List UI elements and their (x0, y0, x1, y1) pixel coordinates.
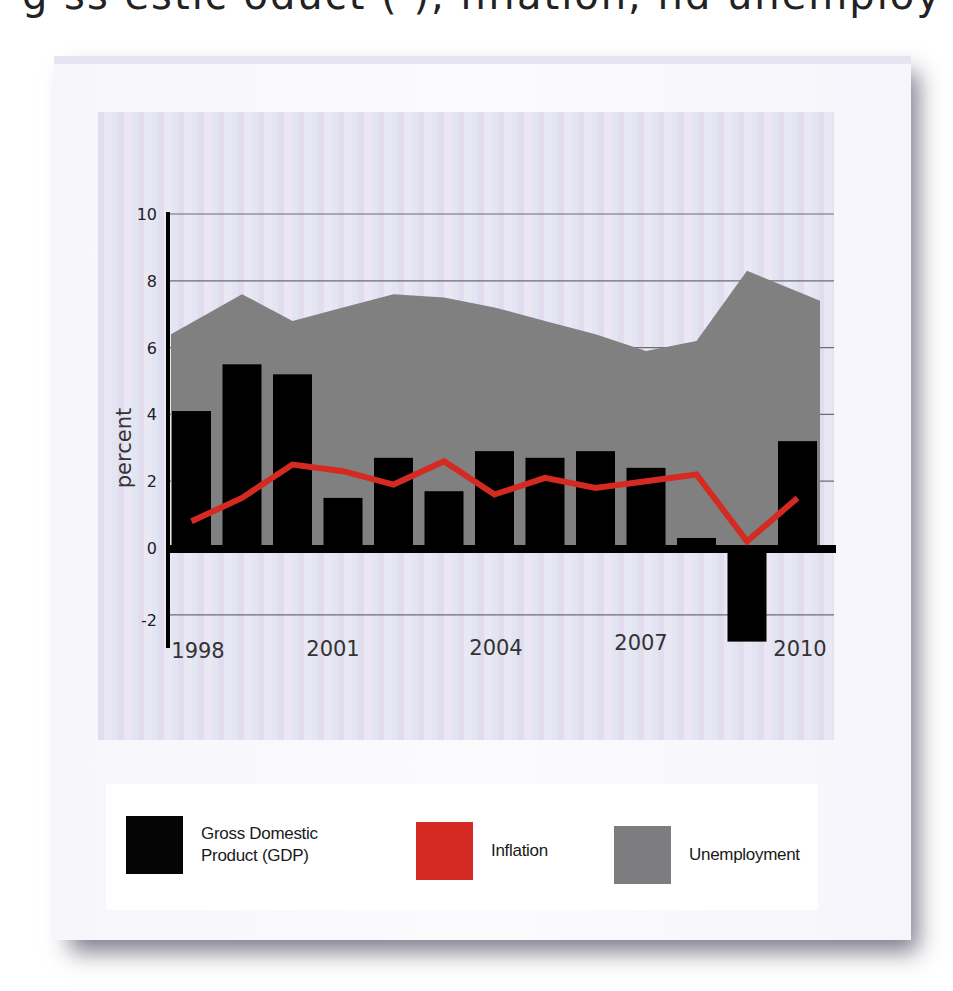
y-axis-line (166, 212, 170, 648)
y-axis-title: percent (112, 408, 136, 488)
y-tick-label: 0 (147, 539, 157, 558)
y-tick-label: 10 (137, 205, 157, 224)
gdp-bar-2003 (425, 491, 464, 548)
legend-label-inflation: Inflation (491, 840, 548, 862)
gdp-swatch-icon (126, 816, 183, 874)
x-tick-label-2001: 2001 (306, 637, 359, 661)
gdp-bar-2000 (273, 374, 312, 548)
y-tick-label: 6 (147, 339, 157, 358)
legend-item-gdp: Gross Domestic Product (GDP) (126, 816, 318, 874)
y-tick-label: -2 (141, 611, 157, 630)
x-tick-label-2004: 2004 (469, 636, 522, 660)
gdp-bar-2004 (475, 451, 514, 548)
legend-item-unemployment: Unemployment (614, 826, 800, 884)
inflation-swatch-icon (416, 822, 473, 880)
legend-item-inflation: Inflation (416, 822, 548, 880)
legend-label-line2: Product (GDP) (201, 846, 309, 865)
x-tick-label-2007: 2007 (614, 631, 667, 655)
gdp-bar-2010 (778, 441, 817, 548)
gdp-bar-2002 (374, 458, 413, 548)
x-tick-label-1998: 1998 (171, 639, 224, 663)
gdp-bar-1998 (172, 411, 211, 548)
y-tick-label: 2 (147, 472, 157, 491)
gdp-bar-1999 (223, 364, 262, 548)
legend-label-unemployment: Unemployment (689, 844, 800, 866)
gdp-bar-2009 (728, 548, 767, 642)
unemployment-swatch-icon (614, 826, 671, 884)
gdp-bar-2006 (576, 451, 615, 548)
gdp-bar-2001 (324, 498, 363, 548)
y-tick-label: 4 (147, 405, 157, 424)
gdp-bar-2005 (526, 458, 565, 548)
y-tick-label: 8 (147, 272, 157, 291)
legend-label-line1: Gross Domestic (201, 824, 318, 843)
legend-label-gdp: Gross Domestic Product (GDP) (201, 823, 318, 867)
x-axis-line (168, 545, 836, 553)
x-tick-label-2010: 2010 (773, 637, 826, 661)
legend: Gross Domestic Product (GDP) Inflation U… (106, 784, 818, 910)
